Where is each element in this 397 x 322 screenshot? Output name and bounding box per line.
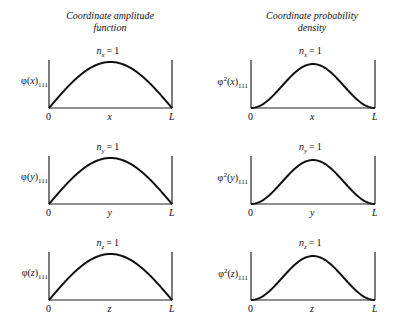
x-tick-start: 0 xyxy=(46,303,51,314)
x-tick-start: 0 xyxy=(248,303,253,314)
x-axis-label: x xyxy=(310,111,314,122)
density-curve xyxy=(251,256,375,300)
x-tick-end: L xyxy=(372,111,378,122)
amplitude-curve xyxy=(49,62,172,108)
y-axis-label: φ2(y)111 xyxy=(202,171,248,186)
x-tick-end: L xyxy=(169,303,175,314)
quantum-number-label: nz = 1 xyxy=(299,237,321,251)
x-tick-start: 0 xyxy=(248,207,253,218)
quantum-number-label: ny = 1 xyxy=(97,141,120,155)
quantum-number-label: nx = 1 xyxy=(299,45,322,59)
x-tick-end: L xyxy=(169,111,175,122)
amplitude-curve xyxy=(49,158,172,204)
y-axis-label: φ(y)111 xyxy=(2,171,48,185)
quantum-number-label: nz = 1 xyxy=(97,237,119,251)
x-axis-label: y xyxy=(310,207,314,218)
x-axis-label: x xyxy=(108,111,112,122)
x-tick-start: 0 xyxy=(248,111,253,122)
amplitude-curve xyxy=(49,254,172,300)
plots-canvas xyxy=(0,0,397,322)
y-axis-label: φ2(z)111 xyxy=(202,267,248,282)
x-axis-label: z xyxy=(108,303,112,314)
y-axis-label: φ(z)111 xyxy=(2,267,48,281)
quantum-number-label: ny = 1 xyxy=(299,141,322,155)
x-axis-label: z xyxy=(310,303,314,314)
y-axis-label: φ(x)111 xyxy=(2,75,48,89)
x-axis-label: y xyxy=(108,207,112,218)
x-tick-start: 0 xyxy=(46,111,51,122)
density-curve xyxy=(251,160,375,204)
x-tick-start: 0 xyxy=(46,207,51,218)
x-tick-end: L xyxy=(372,303,378,314)
quantum-number-label: nx = 1 xyxy=(97,45,120,59)
x-tick-end: L xyxy=(169,207,175,218)
x-tick-end: L xyxy=(372,207,378,218)
y-axis-label: φ2(x)111 xyxy=(202,75,248,90)
density-curve xyxy=(251,64,375,108)
